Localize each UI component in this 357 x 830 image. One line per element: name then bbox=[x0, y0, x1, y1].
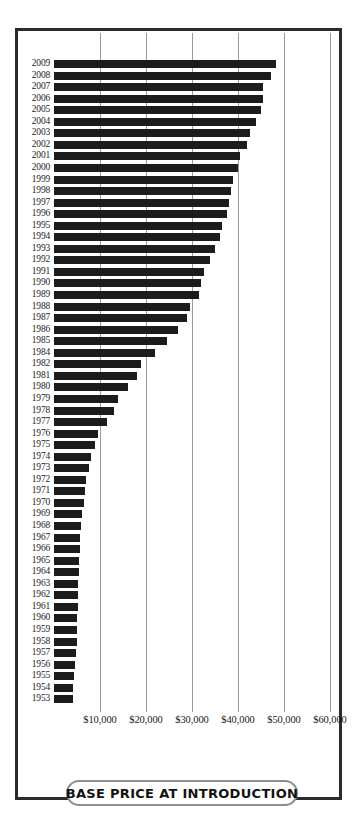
bar-row: 1970 bbox=[18, 498, 345, 509]
bar bbox=[54, 129, 250, 137]
bar-year-label: 1982 bbox=[18, 358, 50, 369]
bar-row: 1979 bbox=[18, 394, 345, 405]
bar bbox=[54, 349, 155, 357]
bar-row: 1958 bbox=[18, 637, 345, 648]
bar bbox=[54, 499, 84, 507]
bar-year-label: 2006 bbox=[18, 93, 50, 104]
bar-year-label: 1974 bbox=[18, 451, 50, 462]
bar-row: 1987 bbox=[18, 313, 345, 324]
bar bbox=[54, 176, 233, 184]
bar bbox=[54, 557, 79, 565]
bar-row: 1959 bbox=[18, 625, 345, 636]
bar-row: 2003 bbox=[18, 128, 345, 139]
bar-year-label: 1966 bbox=[18, 543, 50, 554]
bar-row: 1998 bbox=[18, 186, 345, 197]
chart-frame: 2009200820072006200520042003200220012000… bbox=[15, 28, 342, 800]
bar-row: 1969 bbox=[18, 509, 345, 520]
bar-row: 2005 bbox=[18, 105, 345, 116]
bar-year-label: 1970 bbox=[18, 497, 50, 508]
bar-row: 1988 bbox=[18, 302, 345, 313]
bar-row: 1976 bbox=[18, 429, 345, 440]
bar bbox=[54, 303, 190, 311]
bar-year-label: 1986 bbox=[18, 324, 50, 335]
bar bbox=[54, 395, 118, 403]
bar bbox=[54, 649, 76, 657]
bar bbox=[54, 614, 77, 622]
bar-row: 1997 bbox=[18, 198, 345, 209]
x-tick-label-50000: $50,000 bbox=[267, 714, 300, 725]
bar-year-label: 1971 bbox=[18, 485, 50, 496]
bar-year-label: 1958 bbox=[18, 636, 50, 647]
bar-row: 2009 bbox=[18, 59, 345, 70]
bar-year-label: 1975 bbox=[18, 439, 50, 450]
bar-year-label: 1984 bbox=[18, 347, 50, 358]
bar-row: 1971 bbox=[18, 486, 345, 497]
bar-year-label: 2001 bbox=[18, 150, 50, 161]
bar-row: 2002 bbox=[18, 140, 345, 151]
bar-year-label: 1961 bbox=[18, 601, 50, 612]
bar bbox=[54, 118, 256, 126]
bar-row: 1985 bbox=[18, 336, 345, 347]
bar-year-label: 2007 bbox=[18, 81, 50, 92]
bar-row: 1964 bbox=[18, 567, 345, 578]
bar-row: 1989 bbox=[18, 290, 345, 301]
bar bbox=[54, 430, 98, 438]
bar-row: 1963 bbox=[18, 579, 345, 590]
bar-year-label: 1955 bbox=[18, 670, 50, 681]
bar-year-label: 1996 bbox=[18, 208, 50, 219]
bar-year-label: 1991 bbox=[18, 266, 50, 277]
bar-row: 1973 bbox=[18, 463, 345, 474]
bar-row: 2006 bbox=[18, 94, 345, 105]
bar-row: 2001 bbox=[18, 151, 345, 162]
bar bbox=[54, 476, 86, 484]
bar-year-label: 2005 bbox=[18, 104, 50, 115]
bar-row: 1967 bbox=[18, 533, 345, 544]
bar-year-label: 1963 bbox=[18, 578, 50, 589]
x-tick-label-20000: $20,000 bbox=[129, 714, 162, 725]
bar bbox=[54, 383, 128, 391]
bar bbox=[54, 326, 178, 334]
bar bbox=[54, 279, 201, 287]
bar-row: 1962 bbox=[18, 590, 345, 601]
bar bbox=[54, 106, 261, 114]
bar bbox=[54, 568, 79, 576]
bar-row: 1993 bbox=[18, 244, 345, 255]
bar bbox=[54, 199, 229, 207]
bar-year-label: 1968 bbox=[18, 520, 50, 531]
bar-year-label: 1956 bbox=[18, 659, 50, 670]
bar-year-label: 1995 bbox=[18, 220, 50, 231]
bar-row: 1990 bbox=[18, 278, 345, 289]
chart-page: 2009200820072006200520042003200220012000… bbox=[0, 0, 357, 830]
bar-year-label: 1985 bbox=[18, 335, 50, 346]
bar-row: 1968 bbox=[18, 521, 345, 532]
bar-row: 1980 bbox=[18, 382, 345, 393]
x-tick-label-40000: $40,000 bbox=[221, 714, 254, 725]
bar-year-label: 1977 bbox=[18, 416, 50, 427]
bar bbox=[54, 152, 240, 160]
bar bbox=[54, 510, 82, 518]
bar-row: 1974 bbox=[18, 452, 345, 463]
bar-row: 1961 bbox=[18, 602, 345, 613]
bar-row: 1966 bbox=[18, 544, 345, 555]
bar bbox=[54, 487, 85, 495]
bar-row: 1999 bbox=[18, 175, 345, 186]
bar-year-label: 1997 bbox=[18, 197, 50, 208]
bar-year-label: 1953 bbox=[18, 693, 50, 704]
bar-row: 1955 bbox=[18, 671, 345, 682]
bar-year-label: 1967 bbox=[18, 532, 50, 543]
bar-year-label: 1954 bbox=[18, 682, 50, 693]
bar-year-label: 1959 bbox=[18, 624, 50, 635]
caption-label: BASE PRICE AT INTRODUCTION bbox=[66, 786, 298, 801]
bar bbox=[54, 372, 137, 380]
bar bbox=[54, 141, 247, 149]
bar-row: 1960 bbox=[18, 613, 345, 624]
bar bbox=[54, 534, 80, 542]
bar bbox=[54, 291, 199, 299]
bar bbox=[54, 222, 222, 230]
caption-plaque: BASE PRICE AT INTRODUCTION bbox=[66, 780, 298, 806]
bar bbox=[54, 464, 89, 472]
bar bbox=[54, 60, 276, 68]
bar bbox=[54, 441, 95, 449]
bar-year-label: 1981 bbox=[18, 370, 50, 381]
bar-year-label: 1999 bbox=[18, 174, 50, 185]
